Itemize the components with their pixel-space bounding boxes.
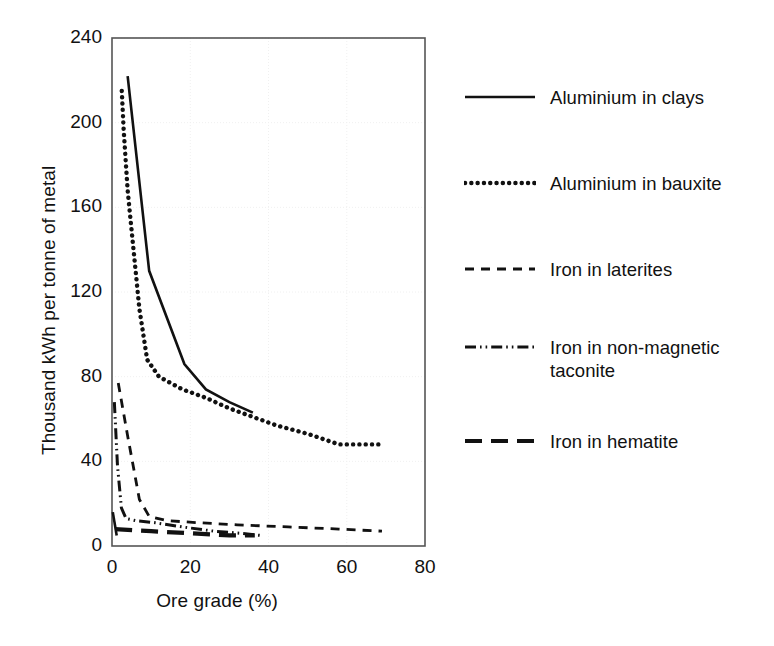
x-axis-title: Ore grade (%) [0, 590, 434, 612]
legend-item-label: Iron in laterites [550, 258, 672, 281]
series-line [122, 91, 382, 444]
data-series-layer [113, 76, 382, 535]
y-tick-label: 200 [40, 111, 102, 133]
y-tick-label: 0 [40, 534, 102, 556]
x-tick-label: 20 [160, 556, 220, 578]
x-tick-label: 80 [395, 556, 455, 578]
legend-line-swatch [464, 86, 536, 106]
chart-figure: 04080120160200240 020406080 Thousand kWh… [0, 0, 774, 646]
legend-item-label: Aluminium in bauxite [550, 172, 722, 195]
series-line [115, 529, 255, 535]
legend-item: Iron in laterites [464, 258, 764, 281]
legend-item: Iron in hematite [464, 430, 764, 453]
x-tick-label: 60 [317, 556, 377, 578]
legend-line-swatch [464, 430, 536, 450]
x-tick-label: 40 [239, 556, 299, 578]
series-line [114, 402, 260, 535]
y-tick-label: 240 [40, 26, 102, 48]
y-axis-title: Thousand kWh per tonne of metal [38, 166, 60, 455]
legend-item: Aluminium in clays [464, 86, 764, 109]
legend-item: Aluminium in bauxite [464, 172, 764, 195]
legend-item-label: Iron in hematite [550, 430, 678, 453]
legend-line-swatch [464, 336, 536, 356]
x-tick-label: 0 [82, 556, 142, 578]
legend-item-label: Aluminium in clays [550, 86, 704, 109]
series-line [118, 383, 382, 531]
legend-line-swatch [464, 258, 536, 278]
legend-item: Iron in non-magnetic taconite [464, 336, 764, 382]
legend-line-swatch [464, 172, 536, 192]
gridlines [112, 38, 425, 546]
legend-item-label: Iron in non-magnetic taconite [550, 336, 740, 382]
